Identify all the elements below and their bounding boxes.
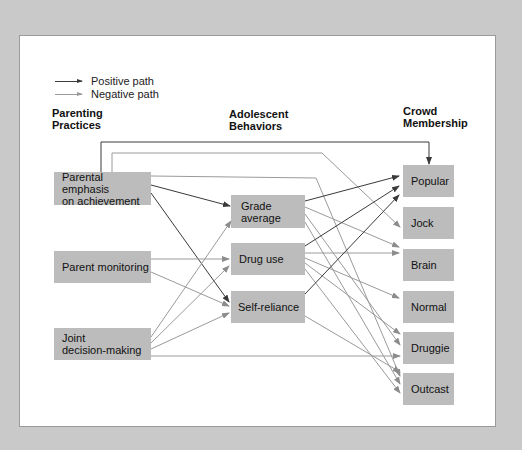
node-drug-use: Drug use: [231, 243, 305, 275]
positive-arrow-icon: [55, 81, 82, 82]
node-parent-monitoring: Parent monitoring: [54, 251, 151, 283]
path-emphasis-grade: [151, 185, 230, 206]
path-drug-druggie: [305, 263, 400, 334]
legend-positive: Positive path: [55, 75, 154, 87]
node-self-reliance: Self-reliance: [231, 291, 305, 323]
column-heading-parenting: Parenting Practices: [52, 107, 103, 131]
node-normal: Normal: [403, 291, 454, 323]
path-self-outcast: [305, 316, 400, 372]
path-grade-popular: [305, 176, 399, 201]
node-outcast: Outcast: [403, 373, 454, 405]
path-emphasis-self: [151, 193, 229, 302]
node-popular: Popular: [403, 165, 454, 197]
node-parental-emphasis: Parental emphasis on achievement: [54, 172, 151, 205]
path-emphasis-popular: [101, 142, 429, 172]
path-drug-popular: [305, 186, 399, 246]
legend-negative-label: Negative path: [91, 88, 159, 100]
node-grade-average: Grade average: [231, 195, 305, 228]
negative-arrow-icon: [55, 94, 82, 95]
path-grade-outcast: [305, 222, 400, 384]
node-brain: Brain: [403, 249, 454, 281]
column-heading-adolescent: Adolescent Behaviors: [229, 108, 288, 132]
legend-negative: Negative path: [55, 88, 159, 100]
node-druggie: Druggie: [403, 332, 454, 364]
node-joint-decision-making: Joint decision-making: [54, 328, 151, 360]
path-joint-grade: [151, 221, 231, 337]
legend-positive-label: Positive path: [91, 75, 154, 87]
path-drug-outcast: [305, 269, 400, 393]
node-jock: Jock: [403, 207, 454, 239]
column-heading-crowd: Crowd Membership: [403, 105, 468, 129]
